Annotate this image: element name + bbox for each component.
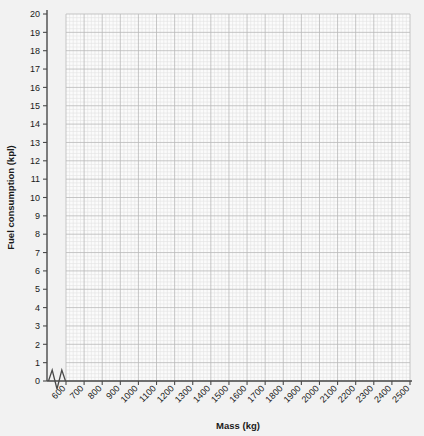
y-axis-tick-label: 2 [35, 340, 40, 350]
y-axis-tick-label: 11 [31, 174, 40, 184]
y-axis-ticks [43, 14, 47, 381]
y-axis-tick-label: 17 [30, 64, 40, 74]
chart-container: 01234567891011121314151617181920 6007008… [0, 0, 424, 436]
y-axis-tick-label: 4 [35, 303, 40, 313]
y-axis-title: Fuel consumption (kpl) [5, 145, 16, 250]
fuel-consumption-vs-mass-chart: 01234567891011121314151617181920 6007008… [0, 0, 424, 436]
y-axis-tick-label: 19 [30, 28, 40, 38]
y-axis-tick-label: 6 [35, 266, 40, 276]
y-axis-tick-label: 18 [30, 46, 40, 56]
y-axis-tick-label: 20 [30, 9, 40, 19]
y-axis-tick-label: 7 [35, 248, 40, 258]
y-axis-tick-label: 3 [35, 321, 40, 331]
grid-major-lines [66, 14, 410, 381]
y-axis-tick-label: 8 [35, 229, 40, 239]
y-axis-tick-label: 13 [30, 138, 40, 148]
y-axis-tick-label: 10 [30, 193, 40, 203]
y-axis-tick-label: 0 [35, 376, 40, 386]
y-axis-tick-label: 14 [30, 119, 40, 129]
y-axis-tick-label: 15 [30, 101, 40, 111]
y-axis-tick-label: 5 [35, 284, 40, 294]
x-axis-title: Mass (kg) [216, 420, 260, 431]
y-axis-tick-label: 12 [30, 156, 40, 166]
y-axis-tick-label: 16 [30, 83, 40, 93]
y-axis-tick-label: 1 [35, 358, 40, 368]
y-axis-tick-label: 9 [35, 211, 40, 221]
